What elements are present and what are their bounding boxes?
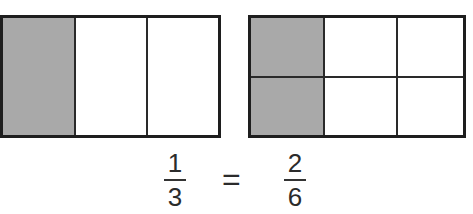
- two-sixths-rectangle: [248, 15, 466, 138]
- one-third-rectangle: [0, 15, 221, 138]
- equals-sign: =: [222, 163, 241, 195]
- shaded-cell: [251, 18, 325, 78]
- denominator: 6: [280, 184, 310, 210]
- unshaded-cell: [148, 18, 218, 135]
- fraction-bar: [164, 179, 186, 181]
- shaded-cell: [251, 78, 325, 135]
- fraction-two-sixths: 2 6: [280, 150, 310, 210]
- unshaded-cell: [325, 78, 398, 135]
- unshaded-cell: [398, 18, 463, 78]
- unshaded-cell: [76, 18, 148, 135]
- denominator: 3: [160, 184, 190, 210]
- shaded-cell: [3, 18, 76, 135]
- numerator: 2: [280, 150, 310, 177]
- unshaded-cell: [398, 78, 463, 135]
- numerator: 1: [160, 150, 190, 177]
- fraction-one-third: 1 3: [160, 150, 190, 210]
- fraction-bar: [284, 179, 306, 181]
- unshaded-cell: [325, 18, 398, 78]
